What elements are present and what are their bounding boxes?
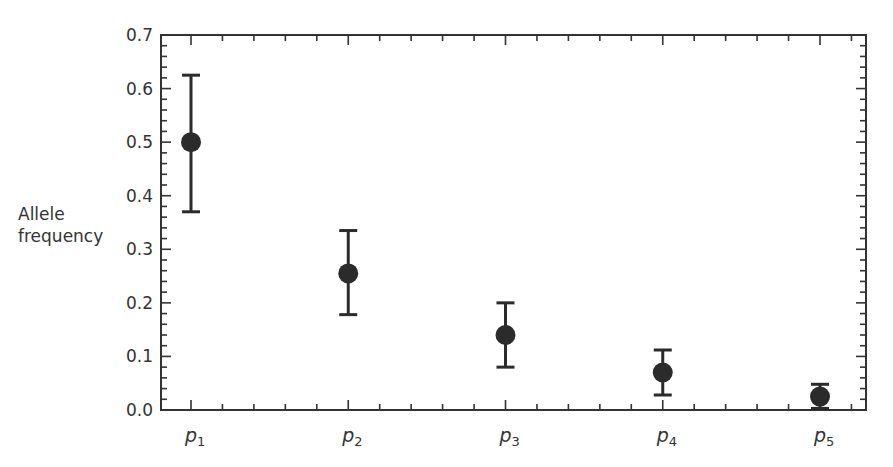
y-tick-label: 0.4 [126, 186, 153, 206]
y-tick-label: 0.1 [126, 346, 153, 366]
x-tick-label-p2: p2 [341, 424, 362, 449]
y-tick-label: 0.3 [126, 239, 153, 259]
plot-frame [161, 35, 866, 410]
data-point-p4 [653, 363, 673, 383]
data-point-p5 [810, 387, 830, 407]
data-point-p1 [181, 132, 201, 152]
x-tick-label-p4: p4 [656, 424, 677, 449]
x-tick-label-p3: p3 [499, 424, 520, 449]
y-tick-label: 0.5 [126, 132, 153, 152]
y-tick-label: 0.0 [126, 400, 153, 420]
y-tick-label: 0.2 [126, 293, 153, 313]
y-tick-label: 0.7 [126, 25, 153, 45]
y-tick-label: 0.6 [126, 79, 153, 99]
x-tick-label-p1: p1 [184, 424, 205, 449]
data-point-p3 [496, 325, 516, 345]
data-point-p2 [338, 263, 358, 283]
chart-plot: 0.00.10.20.30.40.50.60.7p1p2p3p4p5 [0, 0, 893, 467]
x-tick-label-p5: p5 [813, 424, 834, 449]
